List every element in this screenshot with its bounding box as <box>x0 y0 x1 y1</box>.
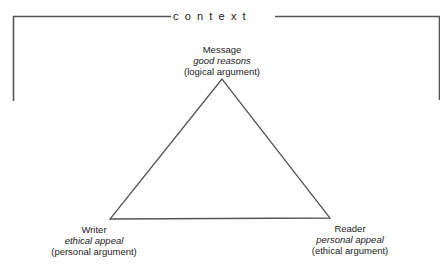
context-frame-left <box>14 17 173 102</box>
message-appeal: good reasons <box>184 55 260 66</box>
message-argument: (logical argument) <box>184 66 260 77</box>
message-node-label: Message good reasons (logical argument) <box>184 44 260 77</box>
context-label: context <box>171 9 275 23</box>
writer-appeal: ethical appeal <box>51 235 137 246</box>
reader-role: Reader <box>312 223 389 234</box>
message-role: Message <box>184 44 260 55</box>
reader-argument: (ethical argument) <box>312 245 389 256</box>
reader-appeal: personal appeal <box>312 234 389 245</box>
writer-node-label: Writer ethical appeal (personal argument… <box>51 224 137 257</box>
rhetorical-triangle <box>110 79 330 219</box>
writer-role: Writer <box>51 224 137 235</box>
context-frame-right <box>272 17 440 101</box>
reader-node-label: Reader personal appeal (ethical argument… <box>312 223 389 256</box>
writer-argument: (personal argument) <box>51 246 137 257</box>
